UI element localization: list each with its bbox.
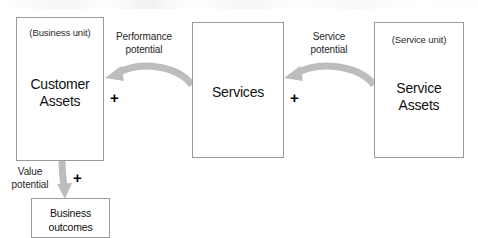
customer-assets-subtitle: (Business unit) — [17, 27, 103, 38]
services-title: Services — [193, 84, 283, 101]
value-potential-arrow — [57, 160, 72, 199]
plus-operator-service: + — [290, 90, 299, 105]
customer-assets-title-line1: Customer — [17, 76, 103, 93]
business-outcomes-title-line1: Business — [32, 206, 109, 220]
box-services[interactable]: Services — [192, 22, 284, 158]
box-customer-assets[interactable]: (Business unit) Customer Assets — [16, 17, 104, 161]
service-assets-title: Service Assets — [375, 80, 463, 114]
service-potential-line1: Service — [293, 31, 365, 44]
service-assets-title-line1: Service — [375, 80, 463, 97]
value-potential-line2: potential — [2, 179, 58, 192]
plus-operator-performance: + — [110, 90, 119, 105]
service-potential-line2: potential — [293, 44, 365, 57]
label-value-potential: Value potential — [2, 166, 58, 191]
label-service-potential: Service potential — [293, 31, 365, 56]
services-title-line1: Services — [193, 84, 283, 101]
plus-operator-value: + — [73, 170, 82, 185]
performance-potential-line2: potential — [104, 44, 184, 57]
customer-assets-title: Customer Assets — [17, 76, 103, 110]
service-potential-arrow — [284, 66, 374, 85]
service-assets-subtitle: (Service unit) — [375, 34, 463, 45]
label-performance-potential: Performance potential — [104, 31, 184, 56]
business-outcomes-title: Business outcomes — [32, 206, 109, 234]
customer-assets-title-line2: Assets — [17, 93, 103, 110]
service-assets-title-line2: Assets — [375, 97, 463, 114]
diagram-canvas: (Business unit) Customer Assets Services… — [0, 0, 478, 238]
box-business-outcomes[interactable]: Business outcomes — [31, 198, 110, 238]
box-service-assets[interactable]: (Service unit) Service Assets — [374, 22, 464, 158]
business-outcomes-title-line2: outcomes — [32, 220, 109, 234]
performance-potential-arrow — [105, 66, 192, 85]
performance-potential-line1: Performance — [104, 31, 184, 44]
value-potential-line1: Value — [2, 166, 58, 179]
